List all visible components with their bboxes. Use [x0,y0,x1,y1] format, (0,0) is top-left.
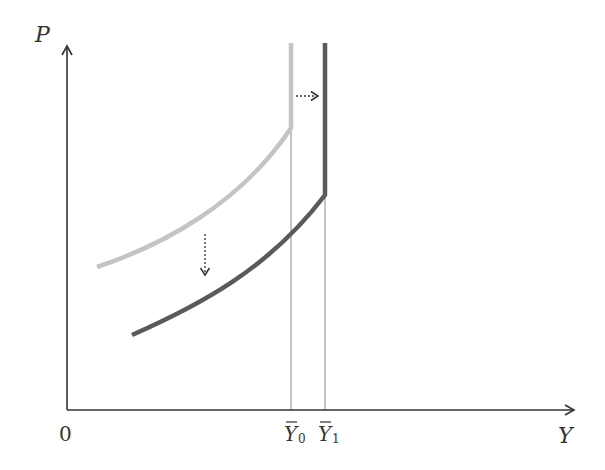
tick-base: Y [284,422,299,446]
shifted-supply-curve [132,43,325,335]
y-axis-label: P [34,22,51,47]
tick-label-y0: Y 0 [284,422,306,446]
origin-label: 0 [59,422,72,446]
tick-subscript: 1 [332,432,340,446]
tick-base: Y [318,422,333,446]
diagram-canvas: P Y 0 Y 0 Y 1 [0,0,605,470]
initial-supply-curve [97,43,291,267]
tick-label-y1: Y 1 [318,422,340,446]
x-axis-label: Y [558,423,575,448]
tick-subscript: 0 [298,432,306,446]
